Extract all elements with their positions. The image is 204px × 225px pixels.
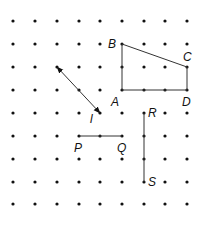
grid-dot: [55, 202, 58, 205]
label-Q: Q: [117, 141, 126, 155]
grid-dot: [55, 42, 58, 45]
label-R: R: [148, 106, 157, 120]
grid-dot: [163, 19, 166, 22]
grid-dot: [11, 202, 14, 205]
label-l: l: [90, 112, 93, 126]
grid-dot: [33, 19, 36, 22]
grid-dot: [120, 19, 123, 22]
label-S: S: [148, 175, 156, 189]
grid-dot: [98, 65, 101, 68]
grid-dot: [163, 42, 166, 45]
grid-dot: [142, 65, 145, 68]
grid-dot: [185, 157, 188, 160]
grid-dot: [11, 65, 14, 68]
grid-dot: [55, 134, 58, 137]
grid-dot: [185, 134, 188, 137]
grid-dot: [163, 65, 166, 68]
grid-dot: [77, 19, 80, 22]
grid-dot: [98, 88, 101, 91]
grid-dot: [11, 157, 14, 160]
grid-dot: [11, 88, 14, 91]
grid-dot: [120, 157, 123, 160]
grid-dot: [120, 202, 123, 205]
grid-dot: [55, 88, 58, 91]
grid-dot: [33, 202, 36, 205]
grid-dot: [163, 111, 166, 114]
grid-dot: [77, 180, 80, 183]
label-P: P: [74, 141, 82, 155]
grid-dot: [142, 42, 145, 45]
grid-dot: [163, 157, 166, 160]
grid-dot: [33, 88, 36, 91]
grid-dot: [55, 180, 58, 183]
grid-dot: [33, 42, 36, 45]
label-C: C: [183, 50, 192, 64]
grid-dot: [142, 202, 145, 205]
grid-dot: [77, 111, 80, 114]
grid-dot: [33, 111, 36, 114]
grid-dot: [77, 65, 80, 68]
grid-dot: [185, 111, 188, 114]
grid-dot: [77, 42, 80, 45]
grid-dot: [77, 202, 80, 205]
line-l-double-arrow: [57, 67, 100, 113]
grid-dot: [98, 180, 101, 183]
grid-dot: [33, 134, 36, 137]
dot-grid-diagram: A B C D l P Q R S: [0, 0, 204, 225]
label-A: A: [110, 95, 119, 109]
labels: A B C D l P Q R S: [74, 37, 192, 189]
grid-dot: [163, 180, 166, 183]
grid-dot: [55, 111, 58, 114]
grid-dot: [33, 180, 36, 183]
grid-dot: [33, 65, 36, 68]
grid-dot: [11, 180, 14, 183]
grid-dot: [33, 157, 36, 160]
grid-dot: [55, 157, 58, 160]
grid-dot: [185, 19, 188, 22]
grid-dot: [142, 19, 145, 22]
grid-dot: [55, 19, 58, 22]
grid-dot: [98, 202, 101, 205]
grid-dot: [11, 42, 14, 45]
label-D: D: [182, 95, 191, 109]
grid-dot: [120, 111, 123, 114]
label-B: B: [108, 37, 116, 51]
grid-dot: [185, 180, 188, 183]
grid-dot: [11, 111, 14, 114]
grid-dot: [11, 134, 14, 137]
grid-dot: [120, 180, 123, 183]
grid-dot: [98, 42, 101, 45]
grid-dot: [163, 134, 166, 137]
grid-dot: [77, 157, 80, 160]
grid-dot: [163, 202, 166, 205]
grid-dot: [185, 202, 188, 205]
grid-dot: [98, 157, 101, 160]
quadrilateral-ABCD: [122, 44, 187, 90]
grid-dot: [11, 19, 14, 22]
grid-dot: [98, 19, 101, 22]
grid-dot: [185, 42, 188, 45]
